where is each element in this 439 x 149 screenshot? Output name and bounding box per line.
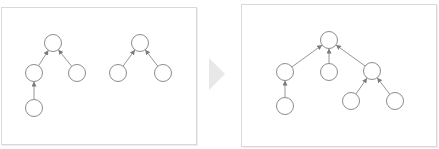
left-node-e <box>132 35 149 52</box>
right-node-m <box>321 64 338 81</box>
left-edge-f-to-e <box>123 50 135 66</box>
left-edge-g-to-e <box>145 50 157 66</box>
left-edge-b-to-a <box>39 51 49 66</box>
right-node-r <box>321 32 338 49</box>
right-node-b <box>277 64 294 81</box>
left-node-c <box>69 65 86 82</box>
right-node-g <box>387 93 404 110</box>
right-edge-f-to-e <box>356 78 367 94</box>
left-forest-edges <box>34 50 158 99</box>
right-node-d <box>277 98 294 115</box>
right-edge-e-to-r <box>336 45 365 66</box>
merged-tree-nodes <box>277 32 404 115</box>
right-node-e <box>364 63 381 80</box>
left-node-f <box>110 65 127 82</box>
right-node-f <box>343 93 360 110</box>
left-node-a <box>45 35 62 52</box>
tree-diagram-canvas <box>0 0 439 149</box>
right-edge-b-to-r <box>292 45 322 67</box>
left-node-g <box>155 65 172 82</box>
transition-arrow-icon <box>209 58 225 90</box>
left-node-b <box>26 65 43 82</box>
left-node-d <box>26 100 43 117</box>
left-forest-nodes <box>26 35 172 117</box>
right-edge-g-to-e <box>377 78 389 94</box>
left-edge-c-to-a <box>59 50 72 66</box>
